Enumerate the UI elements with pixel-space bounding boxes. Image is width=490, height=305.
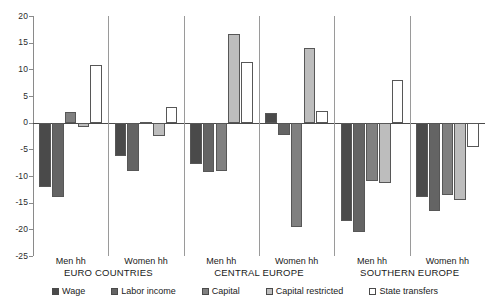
y-tick-mark — [29, 16, 33, 17]
bar — [153, 123, 165, 136]
y-tick-label: -5 — [20, 145, 28, 154]
legend-label: Capital restricted — [276, 286, 344, 296]
bar — [416, 123, 428, 198]
bar — [216, 123, 228, 171]
bar — [392, 80, 404, 123]
legend-swatch — [52, 288, 59, 295]
y-tick-mark — [29, 149, 33, 150]
bar — [203, 123, 215, 172]
bar — [291, 123, 303, 227]
legend-label: Capital — [212, 286, 240, 296]
y-tick-label: 5 — [23, 92, 28, 101]
y-tick-mark — [29, 203, 33, 204]
group-separator — [334, 16, 335, 256]
y-tick-label: 15 — [18, 38, 28, 47]
bar — [140, 122, 152, 124]
chart-legend: WageLabor incomeCapitalCapital restricte… — [0, 283, 490, 299]
bar — [52, 123, 64, 198]
y-tick-label: -10 — [15, 172, 28, 181]
bar — [442, 123, 454, 195]
group-separator — [259, 16, 260, 256]
bar — [190, 123, 202, 165]
legend-item[interactable]: Labor income — [111, 286, 176, 296]
bar — [90, 65, 102, 123]
y-tick-mark — [29, 123, 33, 124]
y-tick-label: 10 — [18, 65, 28, 74]
y-tick-mark — [29, 43, 33, 44]
bar — [353, 123, 365, 232]
bar — [429, 123, 441, 211]
x-category-label: Women hh — [407, 256, 487, 267]
bar — [127, 123, 139, 171]
bar — [467, 123, 479, 147]
y-tick-label: 20 — [18, 12, 28, 21]
bar — [166, 107, 178, 123]
group-separator — [410, 16, 411, 256]
y-tick-mark — [29, 176, 33, 177]
bar — [454, 123, 466, 200]
bar — [278, 123, 290, 135]
legend-label: Labor income — [121, 286, 176, 296]
y-axis-line — [33, 16, 34, 256]
legend-label: Wage — [62, 286, 85, 296]
bar — [241, 62, 253, 122]
y-tick-label: -25 — [15, 252, 28, 261]
x-category-label: Men hh — [31, 256, 111, 267]
legend-swatch — [111, 288, 118, 295]
x-category-label: Men hh — [181, 256, 261, 267]
bar — [341, 123, 353, 222]
legend-swatch — [369, 288, 376, 295]
bar — [304, 48, 316, 123]
x-region-label: SOUTHERN EUROPE — [340, 267, 480, 278]
group-separator — [108, 16, 109, 256]
bar — [379, 123, 391, 183]
y-tick-label: -15 — [15, 198, 28, 207]
group-separator — [184, 16, 185, 256]
legend-item[interactable]: Capital — [202, 286, 240, 296]
y-tick-mark — [29, 96, 33, 97]
bar — [316, 111, 328, 123]
bar — [65, 112, 77, 123]
legend-swatch — [202, 288, 209, 295]
bar — [228, 34, 240, 123]
legend-item[interactable]: Wage — [52, 286, 85, 296]
bar — [39, 123, 51, 187]
legend-item[interactable]: State transfers — [369, 286, 438, 296]
bar-chart: 20151050-5-10-15-20-25 Men hhWomen hhMen… — [0, 0, 490, 305]
y-tick-label: 0 — [23, 118, 28, 127]
bar — [115, 123, 127, 156]
y-tick-mark — [29, 229, 33, 230]
x-category-label: Men hh — [332, 256, 412, 267]
bar — [366, 123, 378, 182]
x-region-label: CENTRAL EUROPE — [189, 267, 329, 278]
bar — [265, 113, 277, 123]
legend-label: State transfers — [379, 286, 438, 296]
y-tick-label: -20 — [15, 225, 28, 234]
x-region-label: EURO COUNTRIES — [38, 267, 178, 278]
bar — [78, 123, 90, 127]
x-category-label: Women hh — [106, 256, 186, 267]
legend-item[interactable]: Capital restricted — [266, 286, 344, 296]
legend-swatch — [266, 288, 273, 295]
plot-area — [33, 16, 485, 256]
y-axis-labels: 20151050-5-10-15-20-25 — [0, 16, 28, 256]
y-tick-mark — [29, 69, 33, 70]
x-category-label: Women hh — [257, 256, 337, 267]
